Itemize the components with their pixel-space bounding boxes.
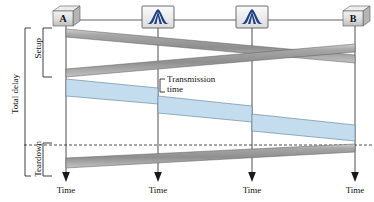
time-label-a: Time bbox=[54, 185, 78, 195]
arrow-r1 bbox=[154, 172, 162, 182]
total-delay-label: Total delay bbox=[10, 74, 20, 114]
data-band-a-to-r1 bbox=[66, 79, 158, 104]
time-arrowheads bbox=[62, 172, 359, 182]
node-b-label: B bbox=[343, 12, 363, 26]
teardown-band bbox=[66, 144, 355, 168]
transmission-time-line2: time bbox=[167, 84, 183, 94]
teardown-bracket bbox=[43, 143, 52, 176]
data-band-r2-to-b bbox=[252, 114, 355, 141]
arrow-b bbox=[351, 172, 359, 182]
total-delay-bracket bbox=[25, 28, 31, 176]
arrow-r2 bbox=[248, 172, 256, 182]
transmission-time-label: Transmission time bbox=[167, 74, 215, 94]
data-band-r1-to-r2 bbox=[158, 96, 252, 122]
router-1[interactable] bbox=[142, 6, 174, 28]
network-delay-diagram bbox=[0, 0, 374, 202]
transmission-time-bracket bbox=[160, 79, 165, 92]
transmission-time-line1: Transmission bbox=[167, 74, 215, 84]
arrow-a bbox=[62, 172, 70, 182]
node-a-label: A bbox=[53, 12, 73, 26]
setup-bracket bbox=[43, 28, 52, 77]
teardown-label: Teardown bbox=[33, 141, 43, 177]
router-2[interactable] bbox=[236, 6, 268, 28]
time-label-r1: Time bbox=[146, 185, 170, 195]
time-label-r2: Time bbox=[240, 185, 264, 195]
setup-label: Setup bbox=[33, 38, 43, 59]
time-label-b: Time bbox=[343, 185, 367, 195]
